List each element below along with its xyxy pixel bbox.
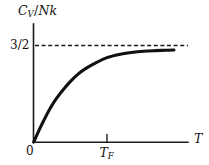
chart-canvas [0, 0, 209, 165]
x-axis-label: T [194, 133, 202, 146]
y-axis-label: CV/Nk [18, 5, 57, 19]
origin-label: 0 [26, 145, 34, 157]
cv-nk-curve [34, 50, 174, 142]
x-axis-tick-label-t: T [100, 145, 108, 160]
y-axis-tick-label-3-2: 3/2 [10, 39, 29, 51]
figure-container: CV/Nk 3/2 0 TF T [0, 0, 209, 165]
y-axis-label-nk: Nk [39, 3, 58, 18]
x-axis-tick-label-tf: TF [100, 147, 114, 161]
y-axis-label-subscript: V [28, 9, 34, 19]
x-axis-tick-label-subscript: F [108, 151, 114, 161]
y-axis-label-c: C [18, 3, 28, 18]
